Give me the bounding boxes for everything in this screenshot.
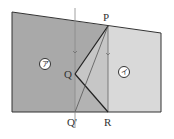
region-label-a: ア (39, 58, 51, 70)
region-label-i: イ (118, 66, 130, 78)
label-p: P (103, 12, 109, 23)
label-r: R (104, 117, 111, 128)
region-i (108, 26, 161, 112)
label-q: Q (64, 69, 72, 80)
geometry-diagram (0, 0, 174, 139)
label-q-prime: Q' (67, 117, 77, 128)
